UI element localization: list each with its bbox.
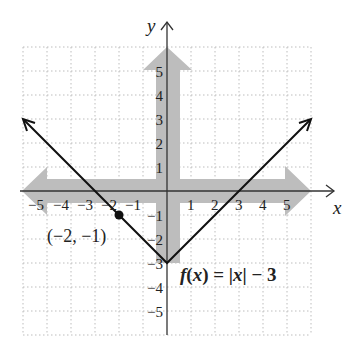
svg-text:−1: −1 — [147, 208, 163, 224]
svg-text:2: 2 — [156, 136, 164, 152]
svg-text:1: 1 — [156, 160, 164, 176]
svg-text:4: 4 — [156, 88, 164, 104]
svg-text:1: 1 — [187, 197, 195, 213]
function-label: f(x) = |x| − 3 — [180, 264, 277, 286]
svg-text:−2: −2 — [147, 232, 163, 248]
svg-text:−4: −4 — [147, 280, 163, 296]
x-axis-label: x — [332, 197, 342, 218]
svg-text:−4: −4 — [53, 197, 69, 213]
svg-text:−5: −5 — [147, 304, 163, 320]
y-axis-label: y — [145, 15, 156, 36]
svg-text:5: 5 — [283, 197, 291, 213]
svg-text:5: 5 — [156, 64, 164, 80]
svg-text:−3: −3 — [77, 197, 93, 213]
point-label: (−2, −1) — [47, 226, 106, 247]
svg-text:4: 4 — [259, 197, 267, 213]
svg-text:−3: −3 — [147, 256, 163, 272]
function-graph: −5 −4 −3 −2 −1 1 2 3 4 5 5 4 3 2 1 −1 −2… — [0, 0, 360, 346]
svg-text:−1: −1 — [125, 197, 141, 213]
svg-text:2: 2 — [211, 197, 219, 213]
svg-text:−2: −2 — [101, 197, 117, 213]
svg-text:−5: −5 — [28, 197, 44, 213]
svg-text:3: 3 — [156, 112, 164, 128]
svg-text:3: 3 — [235, 197, 243, 213]
